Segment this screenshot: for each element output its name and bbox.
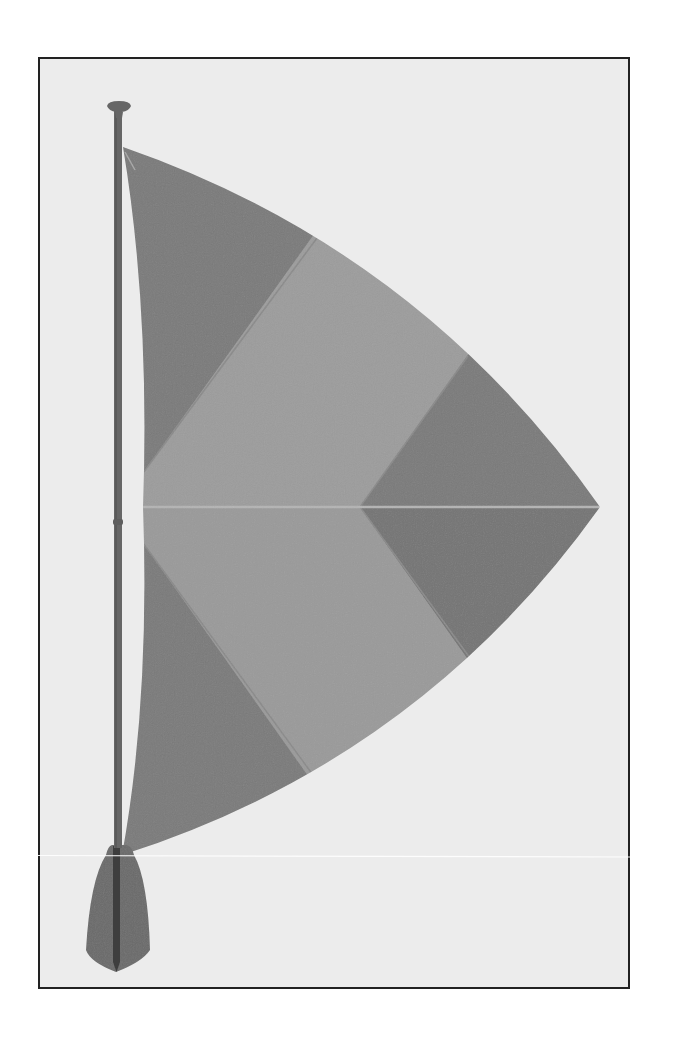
paddle-blade-spine bbox=[113, 846, 120, 972]
paddle-handle bbox=[107, 101, 131, 112]
paddle-shaft-shadow bbox=[115, 108, 117, 848]
sail bbox=[100, 130, 620, 870]
illustration-canvas bbox=[0, 0, 675, 1037]
paddle-shaft-knob bbox=[113, 519, 123, 525]
paddle-handle-neck bbox=[115, 112, 123, 118]
paddle-sail-illustration bbox=[0, 0, 675, 1037]
